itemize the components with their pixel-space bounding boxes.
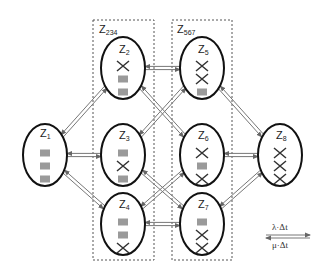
unit-ok-icon bbox=[118, 219, 128, 226]
node-label-z7: Z7 bbox=[198, 199, 209, 211]
group-label-z567: Z567 bbox=[177, 24, 195, 36]
unit-ok-icon bbox=[40, 163, 50, 170]
edge-forward-z3-z7 bbox=[141, 173, 183, 209]
legend-backward-rate: μ·Δt bbox=[272, 240, 288, 250]
edge-forward-z5-z8 bbox=[218, 88, 262, 137]
unit-ok-icon bbox=[197, 89, 207, 96]
legend-arrows bbox=[266, 235, 310, 238]
unit-ok-icon bbox=[40, 176, 50, 183]
edge-backward-z4-z1 bbox=[65, 170, 106, 206]
node-label-z6: Z6 bbox=[198, 130, 209, 142]
unit-ok-icon bbox=[197, 219, 207, 226]
unit-ok-icon bbox=[40, 150, 50, 157]
edge-forward-z3-z5 bbox=[142, 88, 186, 137]
node-label-z1: Z1 bbox=[40, 128, 51, 140]
edge-forward-z7-z8 bbox=[222, 173, 263, 209]
edge-forward-z2-z6 bbox=[139, 88, 183, 137]
node-label-z3: Z3 bbox=[119, 130, 130, 142]
edge-backward-z8-z5 bbox=[220, 86, 264, 135]
edge-forward-z4-z6 bbox=[143, 173, 185, 209]
group-label-z234: Z234 bbox=[99, 24, 117, 36]
unit-ok-icon bbox=[197, 163, 207, 170]
edge-backward-z6-z2 bbox=[142, 86, 186, 135]
unit-ok-icon bbox=[118, 89, 128, 96]
unit-ok-icon bbox=[118, 176, 128, 183]
edge-layer bbox=[61, 66, 264, 225]
edge-backward-z6-z4 bbox=[141, 170, 183, 206]
unit-ok-icon bbox=[118, 76, 128, 83]
edge-forward-z1-z4 bbox=[63, 173, 104, 209]
edge-backward-z2-z1 bbox=[61, 86, 105, 135]
node-label-z4: Z4 bbox=[119, 199, 130, 211]
edge-backward-z7-z3 bbox=[143, 170, 185, 206]
unit-ok-icon bbox=[118, 232, 128, 239]
edge-backward-z5-z3 bbox=[139, 86, 183, 135]
legend-forward-rate: λ·Δt bbox=[272, 222, 288, 232]
node-label-z8: Z8 bbox=[276, 130, 287, 142]
node-label-z2: Z2 bbox=[119, 44, 130, 56]
node-label-z5: Z5 bbox=[198, 44, 209, 56]
edge-forward-z1-z2 bbox=[63, 88, 107, 137]
edge-backward-z8-z7 bbox=[220, 170, 261, 206]
unit-ok-icon bbox=[118, 150, 128, 157]
